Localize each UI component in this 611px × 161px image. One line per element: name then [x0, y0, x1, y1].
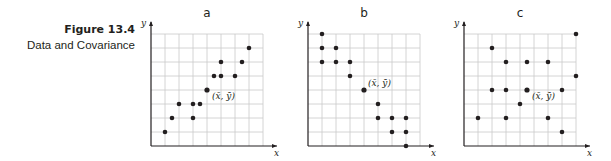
- y-axis-arrow-icon: [306, 21, 310, 26]
- data-point: [320, 60, 325, 65]
- data-point: [404, 130, 409, 135]
- data-point: [504, 116, 509, 121]
- data-point: [518, 102, 523, 107]
- y-axis-label: y: [297, 18, 304, 28]
- data-point: [404, 116, 409, 121]
- data-point: [404, 144, 409, 149]
- data-point: [191, 102, 196, 107]
- data-point: [504, 88, 509, 93]
- scatter-panel-b: yxb(x̄, ȳ): [297, 6, 436, 158]
- x-axis-label: x: [431, 148, 436, 158]
- x-axis-label: x: [587, 148, 592, 158]
- data-point: [163, 130, 168, 135]
- data-point: [334, 60, 339, 65]
- x-axis-label: x: [274, 148, 279, 158]
- data-point: [240, 60, 245, 65]
- data-point: [560, 88, 565, 93]
- mean-point: [361, 87, 366, 92]
- data-point: [320, 46, 325, 51]
- data-point: [376, 116, 381, 121]
- data-point: [348, 60, 353, 65]
- scatter-panel-a: yxa(x̄, ȳ): [140, 6, 279, 158]
- data-point: [247, 46, 252, 51]
- data-point: [546, 60, 551, 65]
- mean-label: (x̄, ȳ): [532, 91, 555, 101]
- mean-point: [204, 87, 209, 92]
- data-point: [546, 116, 551, 121]
- data-point: [233, 74, 238, 79]
- panel-title: a: [203, 6, 210, 20]
- data-point: [198, 102, 203, 107]
- data-point: [504, 60, 509, 65]
- data-point: [170, 116, 175, 121]
- y-axis-arrow-icon: [149, 21, 153, 26]
- mean-point: [524, 87, 529, 92]
- data-point: [177, 102, 182, 107]
- data-point: [320, 32, 325, 37]
- data-point: [390, 116, 395, 121]
- data-point: [490, 46, 495, 51]
- y-axis-arrow-icon: [462, 21, 466, 26]
- panel-title: c: [517, 6, 524, 20]
- data-point: [348, 74, 353, 79]
- data-point: [490, 88, 495, 93]
- data-point: [219, 74, 224, 79]
- data-point: [390, 130, 395, 135]
- data-point: [525, 60, 530, 65]
- data-point: [560, 130, 565, 135]
- mean-label: (x̄, ȳ): [212, 91, 235, 101]
- scatter-plots: yxa(x̄, ȳ)yxb(x̄, ȳ)yxc(x̄, ȳ): [0, 0, 611, 161]
- data-point: [191, 116, 196, 121]
- mean-label: (x̄, ȳ): [368, 78, 391, 88]
- data-point: [212, 74, 217, 79]
- data-point: [219, 60, 224, 65]
- scatter-panel-c: yxc(x̄, ȳ): [453, 6, 592, 158]
- data-point: [476, 116, 481, 121]
- data-point: [334, 46, 339, 51]
- data-point: [574, 74, 579, 79]
- y-axis-label: y: [140, 18, 147, 28]
- data-point: [376, 102, 381, 107]
- y-axis-label: y: [453, 18, 460, 28]
- panel-title: b: [360, 6, 368, 20]
- data-point: [574, 32, 579, 37]
